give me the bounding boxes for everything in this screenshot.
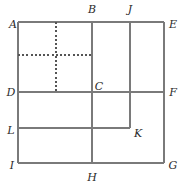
- geometry-diagram: ABJEDCFLKIHG: [0, 0, 188, 191]
- vertex-label-c: C: [95, 81, 103, 92]
- vertex-label-d: D: [7, 87, 16, 98]
- vertex-label-i: I: [10, 160, 14, 171]
- vertex-label-a: A: [9, 19, 17, 30]
- diagram-canvas: [0, 0, 188, 191]
- vertex-label-g: G: [169, 160, 178, 171]
- vertex-label-k: K: [134, 128, 142, 139]
- vertex-label-b: B: [88, 4, 96, 15]
- vertex-label-f: F: [169, 87, 177, 98]
- vertex-label-l: L: [7, 125, 14, 136]
- vertex-label-j: J: [128, 4, 132, 15]
- vertex-label-e: E: [169, 19, 177, 30]
- vertex-label-h: H: [87, 172, 97, 183]
